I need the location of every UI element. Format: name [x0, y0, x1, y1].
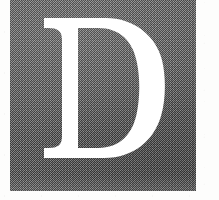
dropcap-letter-d: D [38, 8, 168, 173]
page-canvas: D [0, 0, 219, 200]
ink-bottom-fade [10, 175, 196, 191]
